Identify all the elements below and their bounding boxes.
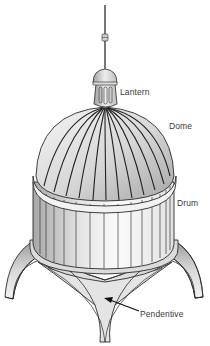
- dome-diagram: Lantern Dome Drum Pendentive: [0, 0, 210, 346]
- dome-illustration: [0, 0, 210, 346]
- label-dome: Dome: [169, 122, 192, 131]
- label-lantern: Lantern: [120, 88, 150, 97]
- label-drum: Drum: [177, 199, 198, 208]
- spire: [102, 5, 108, 69]
- lantern: [93, 69, 117, 107]
- dome: [36, 107, 174, 201]
- label-pendentive: Pendentive: [140, 310, 184, 319]
